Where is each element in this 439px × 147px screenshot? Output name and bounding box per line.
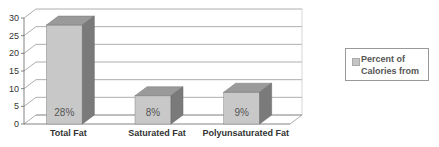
bars: 28%8%9% (46, 16, 271, 124)
gridline-diagonal (24, 97, 36, 106)
floor-side-edge (290, 115, 302, 124)
bar: 8% (135, 87, 183, 124)
bar-side (82, 16, 94, 124)
y-tick-label: 30 (9, 13, 19, 23)
x-tick-label: Polyunsaturated Fat (202, 128, 289, 138)
y-tick-label: 5 (14, 101, 19, 111)
bar: 9% (224, 83, 272, 124)
legend-swatch (352, 58, 360, 66)
gridline-diagonal (24, 44, 36, 53)
legend: Percent of Calories from (345, 48, 429, 81)
bar: 28% (46, 16, 94, 124)
gridline-diagonal (24, 62, 36, 71)
data-label: 9% (234, 107, 249, 118)
y-tick-label: 10 (9, 84, 19, 94)
gridline-diagonal (24, 115, 36, 124)
gridline-diagonal (24, 9, 36, 18)
data-label: 8% (146, 107, 161, 118)
x-tick-label: Saturated Fat (128, 128, 186, 138)
gridline-diagonal (24, 27, 36, 36)
y-tick-label: 15 (9, 66, 19, 76)
y-tick-label: 25 (9, 31, 19, 41)
y-tick-label: 0 (14, 119, 19, 129)
gridline-diagonal (24, 80, 36, 89)
legend-label: Percent of Calories from (361, 53, 427, 77)
y-tick-label: 20 (9, 48, 19, 58)
x-axis: Total FatSaturated FatPolyunsaturated Fa… (50, 128, 289, 138)
x-tick-label: Total Fat (50, 128, 87, 138)
data-label: 28% (54, 107, 74, 118)
